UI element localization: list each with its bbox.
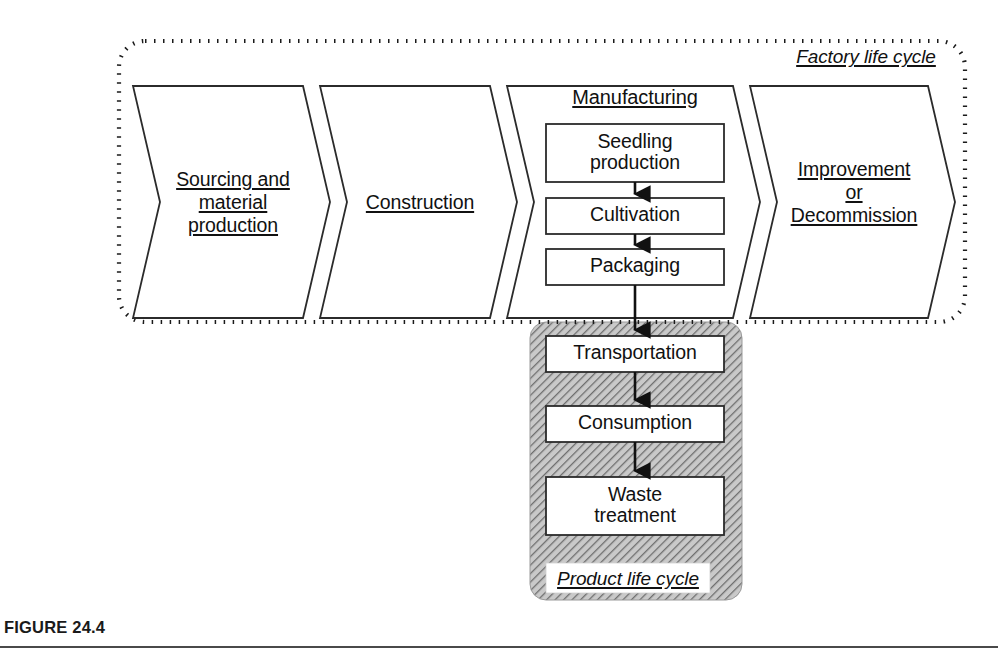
step-label-line: Transportation: [546, 342, 724, 363]
stage-label-improvement: Improvement or Decommission: [766, 158, 942, 227]
step-label-line: production: [546, 152, 724, 173]
caption-divider: [0, 646, 998, 648]
step-label-line: Cultivation: [546, 204, 724, 225]
step-label-packaging: Packaging: [546, 255, 724, 276]
step-label-consumption: Consumption: [546, 412, 724, 433]
step-label-line: Packaging: [546, 255, 724, 276]
step-label-waste-treatment: Waste treatment: [546, 484, 724, 527]
step-label-seedling: Seedling production: [546, 131, 724, 174]
product-life-cycle-label: Product life cycle: [546, 568, 710, 590]
stage-label-sourcing: Sourcing and material production: [152, 168, 314, 237]
step-label-line: Consumption: [546, 412, 724, 433]
step-label-line: treatment: [546, 505, 724, 526]
step-label-line: Waste: [546, 484, 724, 505]
step-label-line: Seedling: [546, 131, 724, 152]
step-label-transportation: Transportation: [546, 342, 724, 363]
diagram-canvas: [0, 0, 998, 655]
stage-label-construction: Construction: [340, 191, 500, 214]
manufacturing-heading: Manufacturing: [546, 86, 724, 110]
step-label-cultivation: Cultivation: [546, 204, 724, 225]
factory-life-cycle-label: Factory life cycle: [782, 46, 950, 68]
figure-caption: FIGURE 24.4: [4, 618, 105, 637]
figure-24-4: Factory life cycle Sourcing and material…: [0, 0, 998, 655]
